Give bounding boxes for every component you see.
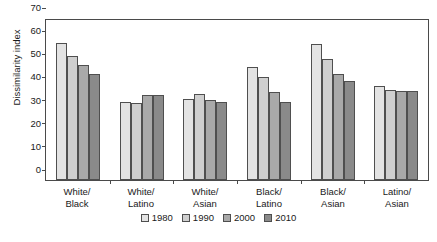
y-axis-tick-label: 60: [24, 26, 41, 36]
plot-area: 010203040506070: [45, 19, 429, 181]
y-axis-tick: 60: [24, 26, 46, 36]
bar-2010[interactable]: [89, 74, 100, 180]
y-axis-title: Dissimilarity index: [11, 8, 22, 128]
legend-item-1990[interactable]: 1990: [182, 212, 214, 223]
bar-1990[interactable]: [67, 56, 78, 180]
dissimilarity-index-bar-chart: Dissimilarity index 010203040506070 Whit…: [0, 0, 437, 242]
y-axis-tick: 20: [24, 119, 46, 129]
bar-2000[interactable]: [269, 92, 280, 180]
x-axis-label: Latino/Asian: [365, 186, 429, 209]
x-axis-label: Black/Asian: [301, 186, 365, 209]
x-axis-label: White/Black: [45, 186, 109, 209]
legend-swatch-2010: [264, 214, 272, 222]
y-axis-tick-mark: [42, 8, 46, 9]
y-axis-tick: 30: [24, 96, 46, 106]
legend-item-2000[interactable]: 2000: [223, 212, 255, 223]
bar-1990[interactable]: [131, 103, 142, 180]
bar-group: [173, 20, 237, 180]
x-axis-label-container: White/BlackWhite/LatinoWhite/AsianBlack/…: [45, 186, 429, 209]
y-axis-tick: 40: [24, 72, 46, 82]
x-axis-label-line1: White/: [64, 186, 91, 197]
bar-1990[interactable]: [194, 94, 205, 180]
bar-2000[interactable]: [78, 65, 89, 180]
x-axis-label-line1: Black/: [320, 186, 346, 197]
x-axis-label-line2: Asian: [173, 198, 237, 210]
x-axis-label-line2: Asian: [301, 198, 365, 210]
x-axis-label-line2: Latino: [237, 198, 301, 210]
bar-2010[interactable]: [153, 95, 164, 180]
bar-2010[interactable]: [216, 102, 227, 180]
bar-1980[interactable]: [311, 44, 322, 180]
bar-2000[interactable]: [333, 74, 344, 180]
x-axis-label: Black/Latino: [237, 186, 301, 209]
y-axis-tick-label: 40: [24, 72, 41, 82]
bar-group: [364, 20, 428, 180]
x-axis-label-line2: Latino: [109, 198, 173, 210]
bar-1990[interactable]: [258, 77, 269, 180]
y-axis-tick-label: 50: [24, 49, 41, 59]
bar-1980[interactable]: [120, 102, 131, 180]
bar-group: [46, 20, 110, 180]
bar-1980[interactable]: [183, 99, 194, 180]
x-axis-tick-mark: [237, 180, 238, 184]
legend-swatch-2000: [223, 214, 231, 222]
x-axis-tick-mark: [173, 180, 174, 184]
y-axis-tick-label: 10: [24, 142, 41, 152]
legend-label: 2010: [275, 212, 296, 223]
bar-1980[interactable]: [374, 86, 385, 180]
bar-group-container: [46, 20, 428, 180]
legend-item-1980[interactable]: 1980: [141, 212, 173, 223]
bar-2000[interactable]: [396, 91, 407, 180]
x-axis-label-line1: Latino/: [383, 186, 412, 197]
bar-group: [301, 20, 365, 180]
x-axis-label-line1: White/: [192, 186, 219, 197]
y-axis-tick-label: 70: [24, 3, 41, 13]
y-axis-tick: 50: [24, 49, 46, 59]
bar-group: [237, 20, 301, 180]
x-axis-tick-mark: [364, 180, 365, 184]
y-axis-tick: 70: [24, 3, 46, 13]
x-axis-label-line2: Black: [45, 198, 109, 210]
x-axis-label: White/Latino: [109, 186, 173, 209]
legend-item-2010[interactable]: 2010: [264, 212, 296, 223]
x-axis-label: White/Asian: [173, 186, 237, 209]
legend-swatch-1980: [141, 214, 149, 222]
x-axis-label-line1: Black/: [256, 186, 282, 197]
y-axis-tick: 10: [24, 142, 46, 152]
legend-label: 2000: [234, 212, 255, 223]
bar-1980[interactable]: [56, 43, 67, 180]
chart-legend: 1980199020002010: [0, 212, 437, 223]
bar-1980[interactable]: [247, 67, 258, 180]
bar-2010[interactable]: [280, 102, 291, 180]
bar-1990[interactable]: [322, 59, 333, 180]
x-axis-tick-mark: [110, 180, 111, 184]
y-axis-tick-label: 30: [24, 96, 41, 106]
legend-label: 1980: [152, 212, 173, 223]
x-axis-label-line2: Asian: [365, 198, 429, 210]
x-axis-label-line1: White/: [128, 186, 155, 197]
bar-2000[interactable]: [142, 95, 153, 180]
y-axis-tick: 0: [24, 165, 46, 175]
y-axis-tick-label: 20: [24, 119, 41, 129]
legend-swatch-1990: [182, 214, 190, 222]
bar-2010[interactable]: [407, 91, 418, 180]
y-axis-tick-label: 0: [24, 165, 41, 175]
bar-2010[interactable]: [344, 81, 355, 180]
bar-group: [110, 20, 174, 180]
legend-label: 1990: [193, 212, 214, 223]
bar-2000[interactable]: [205, 100, 216, 180]
x-axis-tick-mark: [301, 180, 302, 184]
bar-1990[interactable]: [385, 90, 396, 180]
